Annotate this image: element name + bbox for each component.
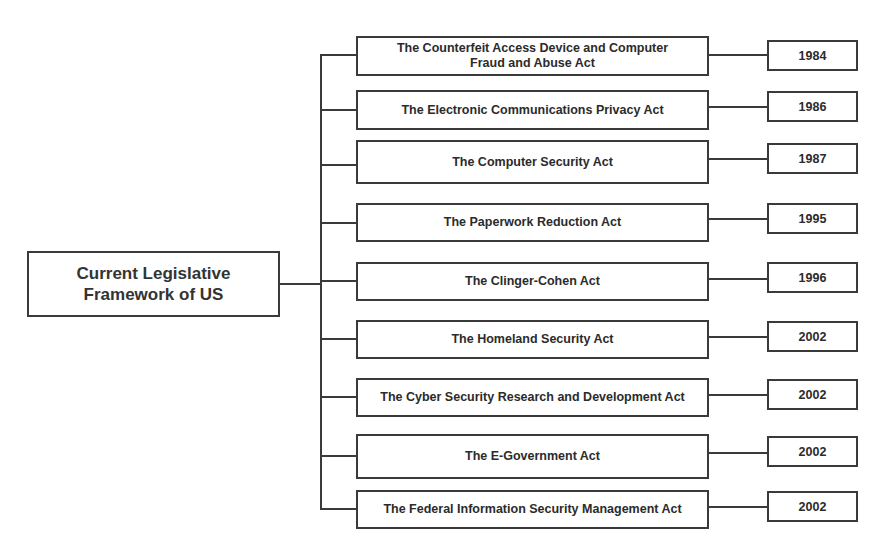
branch-connector	[320, 280, 357, 282]
act-box: The Clinger-Cohen Act	[356, 262, 709, 301]
branch-connector	[320, 222, 357, 224]
year-connector	[708, 394, 768, 396]
branch-connector	[320, 396, 357, 398]
branch-connector	[320, 455, 357, 457]
year-box: 2002	[767, 379, 858, 410]
year-connector	[708, 54, 768, 56]
act-box: The Computer Security Act	[356, 140, 709, 184]
root-node: Current Legislative Framework of US	[27, 251, 280, 317]
year-connector	[708, 506, 768, 508]
act-box: The Paperwork Reduction Act	[356, 203, 709, 242]
year-connector	[708, 158, 768, 160]
act-box: The Counterfeit Access Device and Comput…	[356, 36, 709, 76]
root-connector	[279, 283, 322, 285]
year-connector	[708, 106, 768, 108]
act-box: The Federal Information Security Managem…	[356, 490, 709, 529]
branch-connector	[320, 338, 357, 340]
year-box: 2002	[767, 321, 858, 352]
year-box: 1996	[767, 262, 858, 293]
branch-connector	[320, 54, 357, 56]
root-label: Current Legislative Framework of US	[77, 263, 231, 305]
act-box: The E-Government Act	[356, 434, 709, 479]
branch-connector	[320, 109, 357, 111]
year-connector	[708, 278, 768, 280]
year-box: 1987	[767, 143, 858, 174]
year-box: 1986	[767, 91, 858, 122]
year-box: 1984	[767, 40, 858, 71]
branch-connector	[320, 164, 357, 166]
year-box: 2002	[767, 491, 858, 522]
year-box: 2002	[767, 436, 858, 467]
act-box: The Homeland Security Act	[356, 320, 709, 359]
branch-connector	[320, 508, 357, 510]
act-box: The Cyber Security Research and Developm…	[356, 378, 709, 417]
year-connector	[708, 336, 768, 338]
year-connector	[708, 218, 768, 220]
act-box: The Electronic Communications Privacy Ac…	[356, 90, 709, 130]
year-box: 1995	[767, 203, 858, 234]
year-connector	[708, 452, 768, 454]
